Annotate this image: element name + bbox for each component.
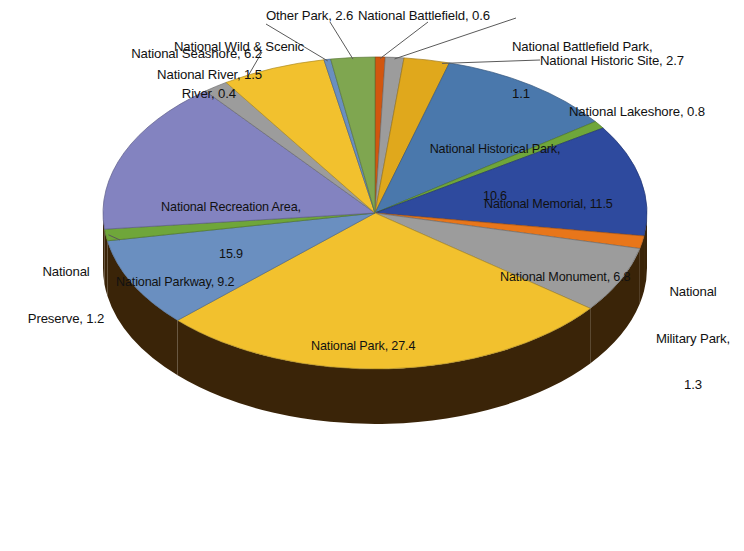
leader-line: [394, 18, 516, 59]
label-national-memorial: National Memorial, 11.5: [484, 197, 664, 213]
label-national-monument: National Monument, 6.8: [500, 270, 680, 286]
leader-line: [330, 22, 353, 59]
label-line-1: National: [647, 284, 739, 300]
label-national-river: National River, 1.5: [90, 67, 262, 83]
label-line-2: Military Park,: [647, 331, 739, 347]
label-national-battlefield: National Battlefield, 0.6: [358, 8, 518, 24]
label-line-1: National: [14, 264, 118, 280]
label-national-historic-site: National Historic Site, 2.7: [540, 53, 740, 69]
label-national-lakeshore: National Lakeshore, 0.8: [569, 104, 744, 120]
label-national-historical-park: National Historical Park, 10.6: [413, 111, 577, 235]
pie-chart: National Wild & Scenic River, 0.4 Nation…: [0, 0, 744, 551]
label-line-3: 1.3: [647, 377, 739, 393]
label-national-seashore: National Seashore, 6.2: [90, 46, 262, 62]
label-line-2: River, 0.4: [104, 86, 304, 102]
label-line-2: 1.1: [512, 86, 704, 102]
label-national-park: National Park, 27.4: [311, 339, 471, 355]
label-line-2: Preserve, 1.2: [14, 311, 118, 327]
label-line-1: National Recreation Area,: [136, 200, 326, 216]
label-national-preserve: National Preserve, 1.2: [14, 233, 118, 357]
leader-line: [380, 22, 428, 59]
label-line-1: National Historical Park,: [413, 142, 577, 158]
label-national-recreation-area: National Recreation Area, 15.9: [136, 169, 326, 293]
label-line-2: 15.9: [136, 247, 326, 263]
